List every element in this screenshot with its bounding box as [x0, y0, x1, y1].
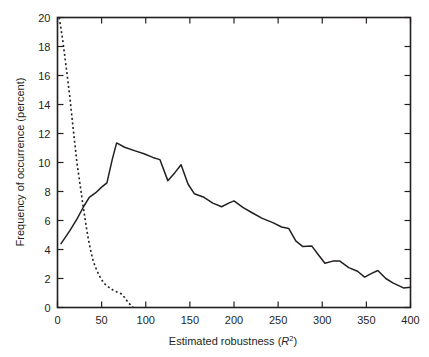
- chart-figure: 050100150200250300350400 024681012141618…: [0, 0, 429, 357]
- x-tick-label-0: 0: [54, 314, 60, 326]
- y-tick-label-6: 12: [38, 128, 50, 140]
- y-tick-label-5: 10: [38, 157, 50, 169]
- x-tick-label-1: 50: [96, 314, 108, 326]
- y-tick-label-3: 6: [44, 215, 50, 227]
- x-tick-label-3: 150: [181, 314, 199, 326]
- chart-background: [0, 0, 429, 357]
- x-tick-label-6: 300: [313, 314, 331, 326]
- y-tick-label-2: 4: [44, 244, 50, 256]
- y-axis-title: Frequency of occurrence (percent): [14, 78, 26, 247]
- y-tick-label-9: 18: [38, 41, 50, 53]
- y-tick-label-8: 16: [38, 70, 50, 82]
- x-tick-label-5: 250: [269, 314, 287, 326]
- x-tick-label-7: 350: [357, 314, 375, 326]
- y-tick-label-1: 2: [44, 273, 50, 285]
- x-tick-label-2: 100: [137, 314, 155, 326]
- y-tick-label-0: 0: [44, 302, 50, 314]
- x-axis-title: Estimated robustness (R2): [169, 334, 297, 347]
- x-tick-label-4: 200: [225, 314, 243, 326]
- frequency-vs-robustness-chart: 050100150200250300350400 024681012141618…: [0, 0, 429, 357]
- y-tick-label-7: 14: [38, 99, 50, 111]
- y-tick-label-4: 8: [44, 186, 50, 198]
- y-tick-label-10: 20: [38, 12, 50, 24]
- x-tick-label-8: 400: [401, 314, 419, 326]
